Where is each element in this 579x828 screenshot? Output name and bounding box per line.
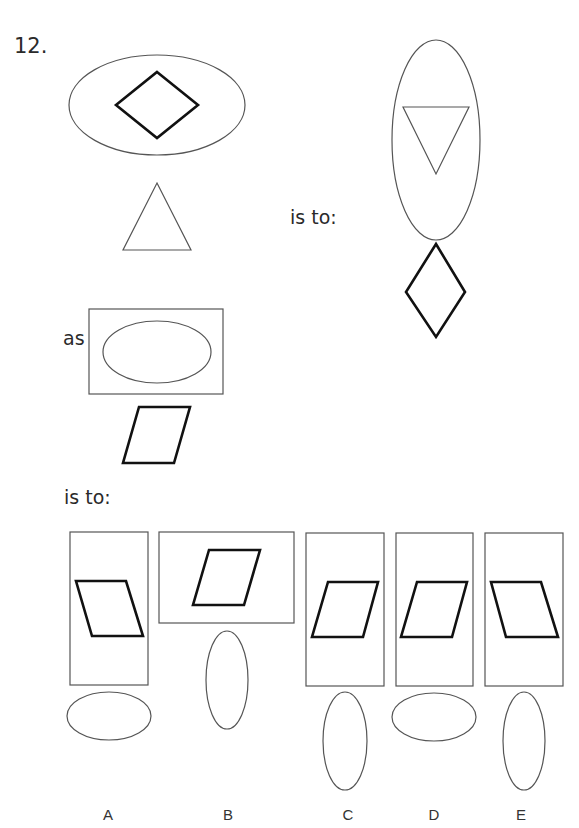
option-b[interactable] [159, 532, 294, 729]
option-label-c[interactable]: C [343, 807, 354, 822]
ellipse-vertical [323, 692, 367, 790]
parallelogram-icon [312, 582, 378, 637]
ellipse-horizontal [69, 55, 245, 155]
parallelogram-icon [123, 407, 190, 463]
rectangle-vertical [396, 533, 473, 686]
figure-3 [89, 309, 223, 463]
diamond-icon [406, 244, 465, 337]
ellipse-vertical [503, 692, 545, 790]
figure-2 [392, 40, 480, 337]
ellipse-horizontal [392, 693, 476, 741]
rectangle-horizontal [159, 532, 294, 623]
option-label-b[interactable]: B [223, 807, 233, 822]
parallelogram-mirrored-icon [76, 581, 143, 636]
figure-canvas [0, 0, 579, 828]
option-label-a[interactable]: A [103, 807, 113, 822]
ellipse-vertical [392, 40, 480, 240]
rectangle-horizontal [89, 309, 223, 394]
option-label-e[interactable]: E [516, 807, 526, 822]
option-d[interactable] [392, 533, 476, 741]
option-a[interactable] [67, 532, 151, 740]
rectangle-vertical [485, 533, 563, 686]
rectangle-vertical [70, 532, 148, 685]
ellipse-horizontal [67, 692, 151, 740]
ellipse-vertical [206, 631, 248, 729]
parallelogram-icon [401, 582, 467, 637]
option-label-d[interactable]: D [429, 807, 440, 822]
rectangle-vertical [306, 533, 384, 686]
inverted-triangle-icon [403, 107, 469, 174]
diamond-icon [116, 72, 198, 138]
parallelogram-mirrored-icon [491, 582, 558, 637]
parallelogram-icon [193, 550, 260, 605]
figure-1 [69, 55, 245, 250]
triangle-icon [123, 183, 191, 250]
ellipse-horizontal [103, 321, 211, 383]
option-c[interactable] [306, 533, 384, 790]
option-e[interactable] [485, 533, 563, 790]
